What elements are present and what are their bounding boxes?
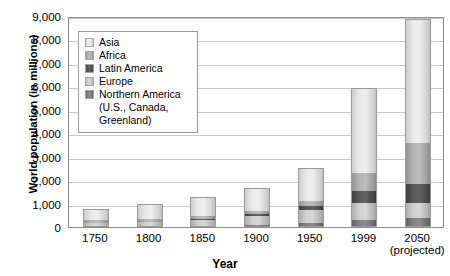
x-axis-tick-label-main: 1999	[351, 232, 377, 244]
x-axis-tick-label-main: 1850	[189, 232, 215, 244]
x-axis-tick-label-main: 1800	[136, 232, 162, 244]
x-axis-tick-label-main: 1900	[243, 232, 269, 244]
x-axis-title: Year	[0, 257, 450, 271]
x-axis-tick-label-main: 1750	[82, 232, 108, 244]
x-axis-tick-label-sub: (projected)	[377, 244, 450, 256]
x-axis-tick-label-2050: 2050(projected)	[377, 232, 450, 256]
x-axis-tick-label-main: 1950	[297, 232, 323, 244]
x-axis-tick-labels: 1750180018501900195019992050(projected)	[0, 0, 450, 276]
x-axis-tick-label-main: 2050	[404, 232, 430, 244]
stacked-bar-chart: World population (in millions) 01,0002,0…	[0, 0, 450, 276]
